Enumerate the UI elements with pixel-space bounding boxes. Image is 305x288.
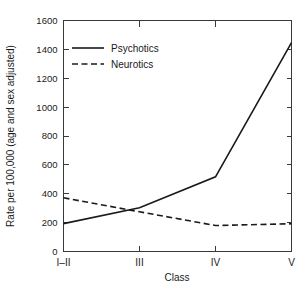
y-tick-label: 0 [52, 246, 57, 257]
series-group [64, 43, 292, 226]
chart-legend: PsychoticsNeurotics [72, 43, 159, 70]
chart-figure: 02004006008001000120014001600 I–IIIIIIVV… [0, 0, 305, 288]
y-tick-label: 800 [42, 130, 58, 141]
y-tick-label: 400 [42, 188, 58, 199]
y-tick-label: 1200 [36, 73, 57, 84]
line-chart: 02004006008001000120014001600 I–IIIIIIVV… [0, 0, 305, 288]
x-tick-label: III [135, 257, 143, 268]
x-tick-label: I–II [57, 257, 71, 268]
x-tick-label: V [288, 257, 295, 268]
y-tick-label: 1000 [36, 102, 57, 113]
x-tick-label: IV [211, 257, 221, 268]
x-axis-ticks: I–IIIIIIVV [57, 21, 296, 268]
legend-label-psychotics: Psychotics [111, 43, 159, 54]
y-tick-label: 1400 [36, 44, 57, 55]
series-line-neurotics [64, 198, 292, 226]
series-line-psychotics [64, 43, 292, 224]
y-tick-label: 1600 [36, 15, 57, 26]
x-axis-title: Class [164, 272, 189, 283]
y-axis-title: Rate per 100,000 (age and sex adjusted) [5, 45, 16, 227]
legend-label-neurotics: Neurotics [111, 59, 153, 70]
y-tick-label: 200 [42, 217, 58, 228]
y-tick-label: 600 [42, 159, 58, 170]
